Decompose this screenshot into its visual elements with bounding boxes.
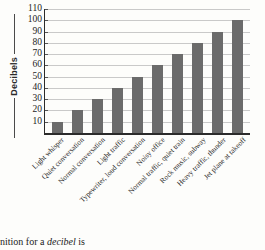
bar-series [45, 9, 250, 133]
caption-prefix: nition for a [0, 236, 47, 247]
y-tick-label: 20 [22, 106, 42, 116]
y-axis-title-rule-top [14, 14, 15, 54]
bar [212, 32, 223, 133]
decibel-bar-chart: Decibels 102030405060708090100110 Light … [0, 0, 265, 250]
bar [92, 99, 103, 133]
y-tick-label: 100 [22, 16, 42, 26]
bar [52, 122, 63, 133]
bar [172, 54, 183, 133]
y-tick-label: 30 [22, 94, 42, 104]
y-tick-label: 40 [22, 83, 42, 93]
plot-area [44, 9, 250, 133]
y-tick-label: 60 [22, 61, 42, 71]
bar [152, 65, 163, 133]
bar [72, 110, 83, 133]
y-tick-label: 80 [22, 38, 42, 48]
bar [192, 43, 203, 133]
caption-italic-term: decibel [47, 236, 76, 247]
bar [232, 20, 243, 133]
y-tick-label: 110 [22, 4, 42, 14]
y-tick-label: 50 [22, 72, 42, 82]
y-axis-tick-labels: 102030405060708090100110 [22, 9, 42, 133]
y-tick-label: 90 [22, 27, 42, 37]
page-caption-fragment: nition for a decibel is [0, 236, 265, 248]
y-axis-title-group: Decibels [6, 14, 22, 138]
y-axis-title: Decibels [9, 54, 19, 99]
y-tick-label: 70 [22, 49, 42, 59]
x-axis-tick-labels: Light whisperQuiet conversationNormal co… [44, 136, 250, 228]
x-axis-line [44, 133, 250, 135]
bar [112, 88, 123, 133]
y-tick-label: 10 [22, 117, 42, 127]
y-axis-title-rule-bottom [14, 98, 15, 138]
caption-suffix: is [76, 236, 85, 247]
bar [132, 77, 143, 133]
